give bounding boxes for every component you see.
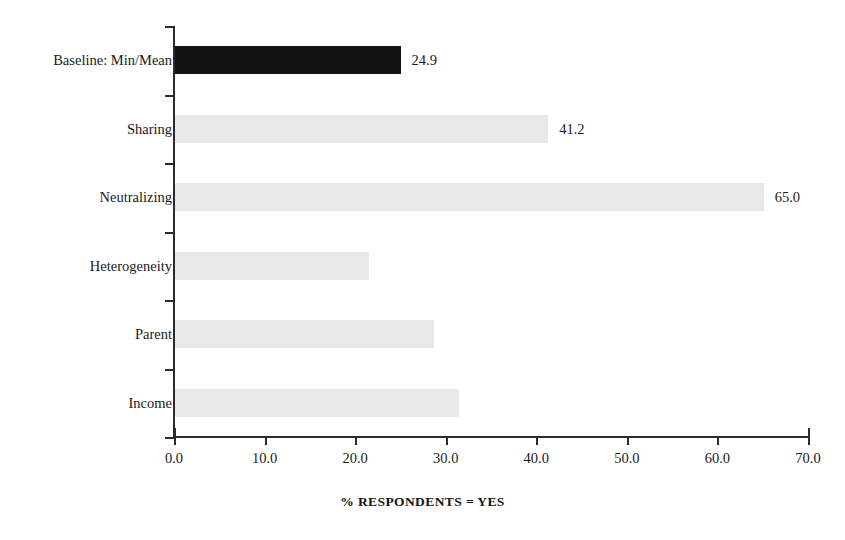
value-tick xyxy=(174,428,176,445)
value-tick-label: 10.0 xyxy=(235,450,295,467)
category-label: Parent xyxy=(135,326,172,343)
category-tick xyxy=(165,26,174,28)
bar-row: Sharing41.2 xyxy=(0,95,845,164)
bar-row: Heterogeneity xyxy=(0,232,845,301)
x-axis-title: % RESPONDENTS = YES xyxy=(0,494,845,510)
category-label: Baseline: Min/Mean xyxy=(53,52,172,69)
value-tick xyxy=(446,436,448,445)
value-tick xyxy=(536,436,538,445)
value-tick xyxy=(355,436,357,445)
category-label: Income xyxy=(129,394,172,411)
value-tick xyxy=(627,436,629,445)
value-tick-label: 20.0 xyxy=(325,450,385,467)
bar[interactable] xyxy=(175,389,459,417)
bar-row: Income xyxy=(0,369,845,438)
value-tick xyxy=(808,428,810,445)
bar-row: Baseline: Min/Mean24.9 xyxy=(0,26,845,95)
bar[interactable] xyxy=(175,252,369,280)
bar-value-label: 41.2 xyxy=(559,120,584,137)
value-tick-label: 70.0 xyxy=(778,450,838,467)
value-tick-label: 30.0 xyxy=(416,450,476,467)
category-tick xyxy=(165,163,174,165)
bar-row: Parent xyxy=(0,300,845,369)
bar[interactable] xyxy=(175,183,764,211)
category-tick xyxy=(165,369,174,371)
bar[interactable] xyxy=(175,320,434,348)
value-tick-label: 0.0 xyxy=(144,450,204,467)
value-tick-label: 60.0 xyxy=(687,450,747,467)
category-tick xyxy=(165,300,174,302)
category-tick xyxy=(165,232,174,234)
category-tick xyxy=(165,437,174,439)
bar-row: Neutralizing65.0 xyxy=(0,163,845,232)
value-tick-label: 40.0 xyxy=(506,450,566,467)
value-tick xyxy=(265,436,267,445)
bar[interactable] xyxy=(175,46,401,74)
value-tick-label: 50.0 xyxy=(597,450,657,467)
bar-chart: Baseline: Min/Mean24.9Sharing41.2Neutral… xyxy=(0,0,845,540)
bar-value-label: 65.0 xyxy=(775,189,800,206)
category-label: Neutralizing xyxy=(100,189,172,206)
category-tick xyxy=(165,95,174,97)
category-label: Heterogeneity xyxy=(90,257,172,274)
value-tick xyxy=(717,436,719,445)
category-label: Sharing xyxy=(127,120,172,137)
bar-value-label: 24.9 xyxy=(412,52,437,69)
bar[interactable] xyxy=(175,115,548,143)
